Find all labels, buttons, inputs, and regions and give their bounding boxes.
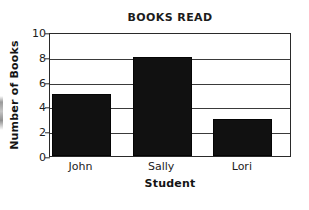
plot-area bbox=[49, 33, 291, 157]
y-axis-tick-mark bbox=[45, 83, 50, 84]
bar bbox=[52, 94, 111, 156]
bar-chart-figure: BOOKS READ Number of Books 0246810 JohnS… bbox=[0, 0, 309, 210]
y-axis-tick-mark bbox=[45, 58, 50, 59]
y-axis-tick-label: 6 bbox=[12, 77, 46, 88]
bar bbox=[213, 119, 272, 156]
x-axis-tick-label: Lori bbox=[202, 160, 281, 174]
x-axis-tick-labels: JohnSallyLori bbox=[49, 160, 291, 176]
y-axis-tick-label: 10 bbox=[12, 28, 46, 39]
y-axis-tick-mark bbox=[45, 157, 50, 158]
y-axis-tick-label: 2 bbox=[12, 127, 46, 138]
scan-artifact bbox=[0, 96, 3, 130]
y-axis-tick-mark bbox=[45, 33, 50, 34]
y-axis-tick-labels: 0246810 bbox=[8, 33, 46, 157]
x-axis-title: Student bbox=[49, 177, 291, 190]
bar bbox=[133, 57, 192, 156]
x-axis-tick-label: Sally bbox=[122, 160, 201, 174]
y-axis-tick-label: 8 bbox=[12, 52, 46, 63]
y-axis-tick-mark bbox=[45, 108, 50, 109]
y-axis-tick-mark bbox=[45, 132, 50, 133]
page-title: BOOKS READ bbox=[49, 11, 291, 24]
x-axis-tick-label: John bbox=[41, 160, 120, 174]
y-axis-tick-label: 4 bbox=[12, 102, 46, 113]
